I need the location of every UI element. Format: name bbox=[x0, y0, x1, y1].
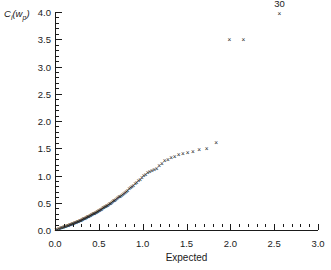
data-point: × bbox=[64, 223, 69, 228]
x-tick-minor bbox=[292, 224, 293, 227]
point-annotation: 30 bbox=[274, 0, 285, 9]
y-tick-minor bbox=[56, 214, 59, 215]
data-point: × bbox=[159, 161, 164, 166]
data-point: × bbox=[127, 186, 132, 191]
x-tick-major bbox=[187, 224, 188, 230]
data-point: × bbox=[111, 198, 116, 203]
y-tick-major bbox=[56, 148, 62, 149]
data-point: × bbox=[138, 177, 143, 182]
data-point: × bbox=[185, 150, 190, 155]
y-tick-label: 2.5 bbox=[38, 88, 51, 99]
data-point: × bbox=[102, 204, 107, 209]
data-point: × bbox=[81, 216, 86, 221]
y-tick-major bbox=[56, 176, 62, 177]
data-point: × bbox=[67, 222, 72, 227]
data-point: × bbox=[75, 219, 80, 224]
data-point: × bbox=[77, 218, 82, 223]
data-point: × bbox=[103, 204, 108, 209]
y-tick-label: 3.0 bbox=[38, 61, 51, 72]
x-tick-label: 0.5 bbox=[92, 238, 105, 249]
y-tick-major bbox=[56, 67, 62, 68]
y-tick-minor bbox=[56, 83, 59, 84]
y-tick-minor bbox=[56, 45, 59, 46]
data-point: × bbox=[85, 214, 90, 219]
data-point: × bbox=[99, 207, 104, 212]
x-tick-minor bbox=[64, 224, 65, 227]
x-tick-minor bbox=[283, 224, 284, 227]
x-tick-minor bbox=[116, 224, 117, 227]
x-tick-minor bbox=[265, 224, 266, 227]
y-tick-label: 0.5 bbox=[38, 197, 51, 208]
data-point: × bbox=[107, 201, 112, 206]
x-tick-minor bbox=[160, 224, 161, 227]
data-point: × bbox=[92, 211, 97, 216]
data-point: × bbox=[82, 216, 87, 221]
y-tick-minor bbox=[56, 17, 59, 18]
data-point: × bbox=[105, 203, 110, 208]
data-point: × bbox=[96, 208, 101, 213]
data-point: × bbox=[129, 184, 134, 189]
data-point: × bbox=[89, 212, 94, 217]
data-point: × bbox=[149, 168, 154, 173]
data-point: × bbox=[128, 185, 133, 190]
data-point: × bbox=[136, 178, 141, 183]
y-tick-minor bbox=[56, 170, 59, 171]
y-tick-minor bbox=[56, 61, 59, 62]
data-point: × bbox=[106, 202, 111, 207]
data-point: × bbox=[139, 175, 144, 180]
data-point: × bbox=[214, 140, 219, 145]
data-point: × bbox=[95, 209, 100, 214]
data-point: × bbox=[172, 154, 177, 159]
x-tick-major bbox=[274, 224, 275, 230]
x-tick-minor bbox=[73, 224, 74, 227]
y-tick-minor bbox=[56, 197, 59, 198]
data-point: × bbox=[141, 173, 146, 178]
y-tick-major bbox=[56, 230, 62, 231]
data-point: × bbox=[91, 211, 96, 216]
data-point: × bbox=[169, 155, 174, 160]
y-tick-minor bbox=[56, 159, 59, 160]
y-tick-major bbox=[56, 39, 62, 40]
data-point: × bbox=[123, 190, 128, 195]
data-point: × bbox=[113, 197, 118, 202]
x-tick-minor bbox=[257, 224, 258, 227]
x-tick-major bbox=[143, 224, 144, 230]
data-point: × bbox=[118, 194, 123, 199]
y-tick-label: 0.0 bbox=[38, 225, 51, 236]
y-tick-minor bbox=[56, 137, 59, 138]
data-point: × bbox=[86, 214, 91, 219]
y-tick-label: 2.0 bbox=[38, 116, 51, 127]
x-tick-minor bbox=[239, 224, 240, 227]
y-tick-minor bbox=[56, 225, 59, 226]
data-point: × bbox=[176, 152, 181, 157]
data-point: × bbox=[80, 217, 85, 222]
x-tick-minor bbox=[222, 224, 223, 227]
data-point: × bbox=[73, 220, 78, 225]
y-tick-minor bbox=[56, 143, 59, 144]
data-point: × bbox=[104, 203, 109, 208]
x-tick-label: 2.0 bbox=[224, 238, 237, 249]
data-point: × bbox=[119, 193, 124, 198]
x-tick-minor bbox=[81, 224, 82, 227]
data-point: × bbox=[78, 218, 83, 223]
x-tick-minor bbox=[195, 224, 196, 227]
data-point: × bbox=[227, 37, 232, 42]
data-point: × bbox=[143, 172, 148, 177]
data-point: × bbox=[94, 210, 99, 215]
data-point: × bbox=[120, 192, 125, 197]
data-point: × bbox=[204, 146, 209, 151]
data-point: × bbox=[93, 210, 98, 215]
data-point: × bbox=[88, 213, 93, 218]
y-tick-minor bbox=[56, 208, 59, 209]
y-tick-major bbox=[56, 12, 62, 13]
y-tick-minor bbox=[56, 77, 59, 78]
data-point: × bbox=[109, 200, 114, 205]
data-point: × bbox=[147, 169, 152, 174]
data-point: × bbox=[79, 217, 84, 222]
data-point: × bbox=[90, 212, 95, 217]
data-point: × bbox=[65, 223, 70, 228]
x-tick-minor bbox=[151, 224, 152, 227]
data-point: × bbox=[241, 37, 246, 42]
x-tick-minor bbox=[248, 224, 249, 227]
x-tick-minor bbox=[134, 224, 135, 227]
